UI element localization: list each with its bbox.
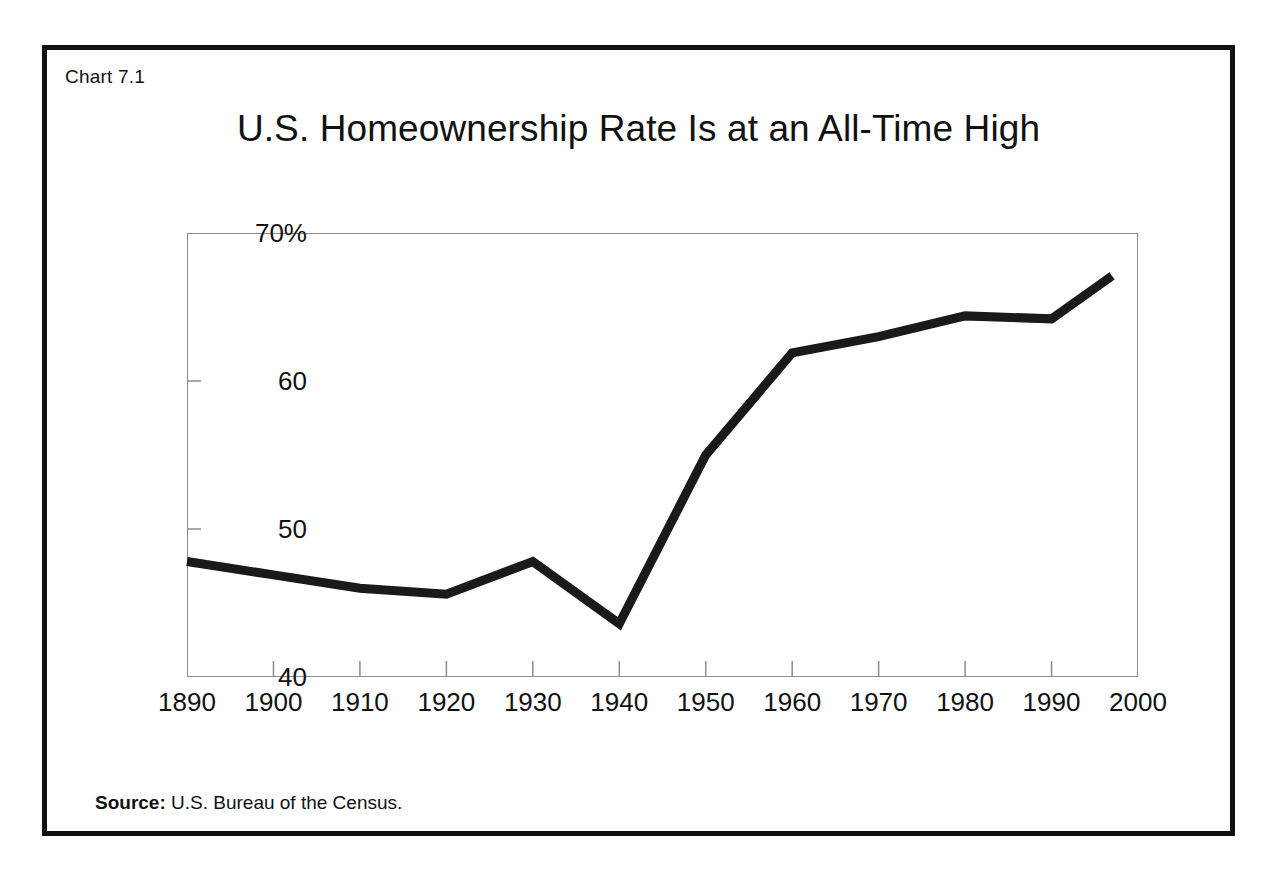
plot-area: 70%605040 189019001910192019301940195019…: [187, 233, 1138, 677]
figure-panel: Chart 7.1 U.S. Homeownership Rate Is at …: [42, 45, 1235, 836]
x-tick-label: 2000: [1109, 687, 1167, 718]
x-tick-label: 1980: [936, 687, 994, 718]
x-tick-label: 1970: [850, 687, 908, 718]
y-axis-labels: 70%605040: [177, 233, 307, 677]
source-label: Source:: [95, 792, 166, 813]
x-tick-label: 1930: [504, 687, 562, 718]
source-text: U.S. Bureau of the Census.: [166, 792, 403, 813]
x-tick-label: 1900: [245, 687, 303, 718]
x-tick-marks: [273, 661, 1051, 677]
chart-number-label: Chart 7.1: [65, 66, 145, 88]
source-note: Source: U.S. Bureau of the Census.: [95, 792, 402, 814]
x-tick-label: 1940: [590, 687, 648, 718]
x-tick-label: 1890: [158, 687, 216, 718]
y-tick-label: 70%: [255, 218, 307, 249]
x-tick-label: 1920: [417, 687, 475, 718]
x-tick-label: 1910: [331, 687, 389, 718]
x-axis-labels: 1890190019101920193019401950196019701980…: [187, 687, 1138, 727]
x-tick-label: 1950: [677, 687, 735, 718]
y-tick-label: 60: [278, 366, 307, 397]
x-tick-label: 1960: [763, 687, 821, 718]
y-tick-label: 50: [278, 514, 307, 545]
x-tick-label: 1990: [1023, 687, 1081, 718]
data-series-line: [187, 276, 1112, 624]
chart-title: U.S. Homeownership Rate Is at an All-Tim…: [47, 108, 1230, 150]
plot-canvas: [187, 233, 1138, 677]
